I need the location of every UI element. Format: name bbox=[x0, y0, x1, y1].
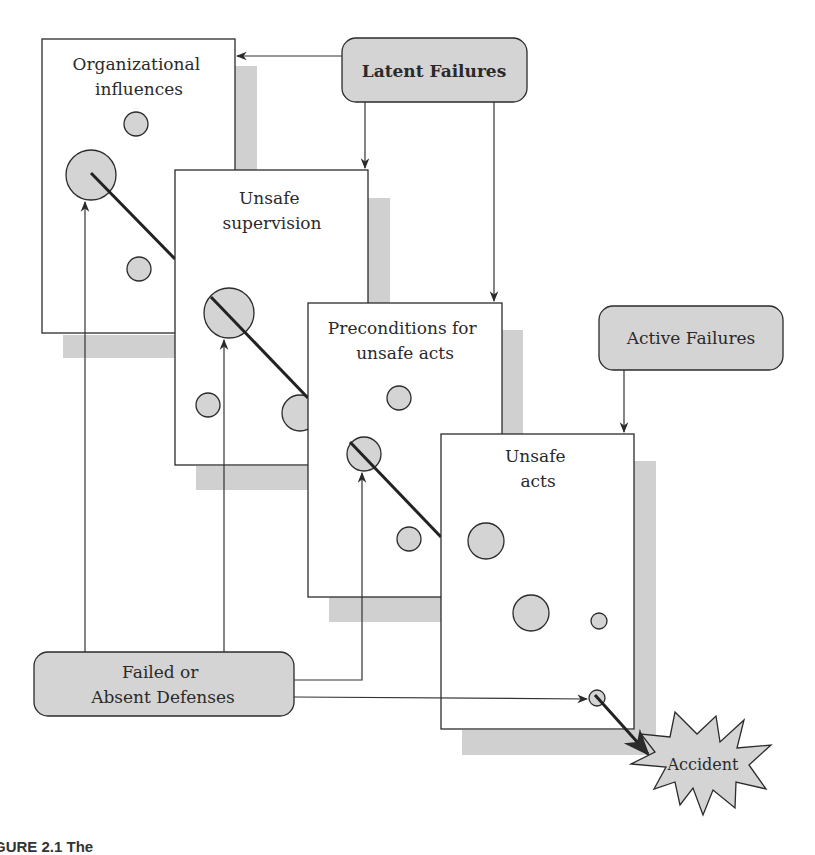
hole-circle bbox=[468, 523, 504, 559]
hole-circle bbox=[204, 288, 254, 338]
hole-circle bbox=[124, 112, 148, 136]
hole-circle bbox=[591, 613, 607, 629]
layer-label: unsafe acts bbox=[356, 343, 454, 363]
hole-circle bbox=[513, 595, 549, 631]
layer-label: Preconditions for bbox=[328, 318, 478, 338]
layer-label: Organizational bbox=[73, 54, 201, 74]
layer-label: supervision bbox=[222, 213, 321, 233]
hole-circle bbox=[387, 386, 411, 410]
layer-label: Unsafe bbox=[505, 446, 566, 466]
accident-label: Accident bbox=[666, 755, 739, 774]
failed-defenses-label: Absent Defenses bbox=[90, 687, 235, 707]
figure-caption-fragment: GURE 2.1 The bbox=[0, 838, 93, 855]
active-failures-label: Active Failures bbox=[626, 328, 756, 348]
latent-failures-label: Latent Failures bbox=[362, 61, 507, 81]
layer-label: Unsafe bbox=[239, 188, 300, 208]
layer-shadow bbox=[634, 461, 656, 755]
failed-defenses-callout: Failed or Absent Defenses bbox=[34, 652, 294, 716]
layer-unsafe-acts: Unsafe acts bbox=[441, 434, 656, 755]
hole-circle bbox=[127, 257, 151, 281]
latent-failures-callout: Latent Failures bbox=[342, 38, 527, 102]
hole-circle bbox=[397, 527, 421, 551]
hole-circle bbox=[196, 393, 220, 417]
failed-defenses-label: Failed or bbox=[122, 662, 199, 682]
layer-shadow bbox=[462, 730, 656, 755]
active-failures-callout: Active Failures bbox=[599, 306, 783, 370]
layer-label: acts bbox=[520, 471, 555, 491]
layer-label: influences bbox=[95, 79, 183, 99]
